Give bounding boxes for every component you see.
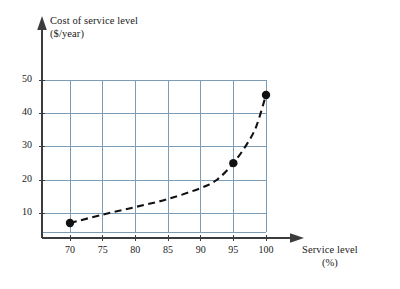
y-axis-title: Cost of service level ($/year) — [50, 14, 138, 40]
data-point-marker-2 — [262, 91, 270, 99]
chart-figure: Cost of service level ($/year) Service l… — [0, 0, 400, 289]
y-tick-label-30: 30 — [8, 139, 32, 150]
y-axis-arrow-icon — [37, 16, 47, 30]
data-point-marker-0 — [66, 219, 74, 227]
x-axis-line — [42, 233, 304, 243]
x-axis-title: Service level (%) — [302, 243, 358, 269]
grid-vertical-lines — [70, 80, 266, 232]
y-tick-label-40: 40 — [8, 106, 32, 117]
x-tick-label-90: 90 — [187, 244, 215, 255]
y-axis-title-unit: ($/year) — [50, 27, 138, 40]
data-point-marker-1 — [229, 159, 237, 167]
x-tick-label-70: 70 — [56, 244, 84, 255]
y-tick-label-50: 50 — [8, 73, 32, 84]
x-tick-label-75: 75 — [89, 244, 117, 255]
x-tick-label-80: 80 — [121, 244, 149, 255]
y-tick-label-20: 20 — [8, 173, 32, 184]
grid-horizontal-lines — [42, 80, 266, 232]
x-tick-label-85: 85 — [154, 244, 182, 255]
x-tick-label-100: 100 — [252, 244, 280, 255]
y-tick-label-10: 10 — [8, 206, 32, 217]
y-axis-line — [37, 16, 47, 238]
x-axis-title-unit: (%) — [302, 256, 358, 269]
y-axis-title-main: Cost of service level — [50, 15, 138, 26]
x-axis-title-main: Service level — [302, 244, 358, 255]
x-tick-label-95: 95 — [219, 244, 247, 255]
x-axis-arrow-icon — [290, 233, 304, 243]
